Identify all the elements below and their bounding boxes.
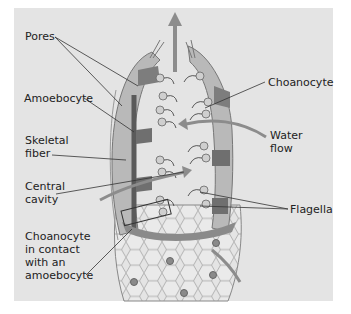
label-choanocyte: Choanocyte [268, 76, 333, 89]
pore-cell [210, 272, 217, 279]
arrowhead [178, 118, 188, 130]
pore-cell [213, 240, 220, 247]
spicules [150, 40, 195, 58]
pore-cell [181, 290, 188, 297]
label-choanocyte-contact: Choanocyte in contact with an amoebocyte [25, 230, 93, 282]
pore-cell [167, 258, 174, 265]
label-water-flow: Water flow [270, 129, 303, 155]
pore-cell [131, 279, 138, 286]
label-amoebocyte: Amoebocyte [24, 92, 93, 105]
label-skeletal-fiber: Skeletal fiber [25, 134, 69, 160]
outflow-arrow [168, 12, 182, 72]
label-pores: Pores [25, 30, 55, 43]
label-flagella: Flagella [290, 203, 333, 216]
label-central-cavity: Central cavity [25, 180, 65, 206]
choanocytes-left [156, 74, 177, 216]
